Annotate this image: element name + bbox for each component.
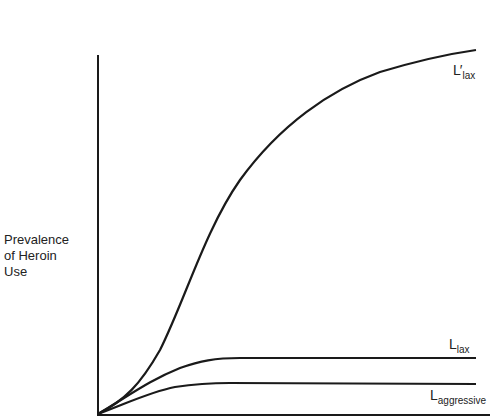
curve-l-aggressive <box>98 383 476 414</box>
label-main: L <box>449 336 457 352</box>
y-axis-label-line: of Heroin <box>4 248 69 264</box>
y-axis-label-line: Use <box>4 264 69 280</box>
y-axis-label-line: Prevalence <box>4 232 69 248</box>
y-axis-label: Prevalence of Heroin Use <box>4 232 69 280</box>
label-sub: lax <box>457 344 470 355</box>
label-sub: aggressive <box>438 395 486 406</box>
label-l-lax: Llax <box>449 336 470 355</box>
chart-canvas <box>0 0 490 420</box>
label-l-lax-prime: L′lax <box>453 62 475 81</box>
label-main: L <box>430 387 438 403</box>
curve-l-lax <box>98 358 476 414</box>
label-sub: lax <box>462 70 475 81</box>
curve-l-lax-prime <box>98 50 476 414</box>
label-l-aggressive: Laggressive <box>430 387 486 406</box>
